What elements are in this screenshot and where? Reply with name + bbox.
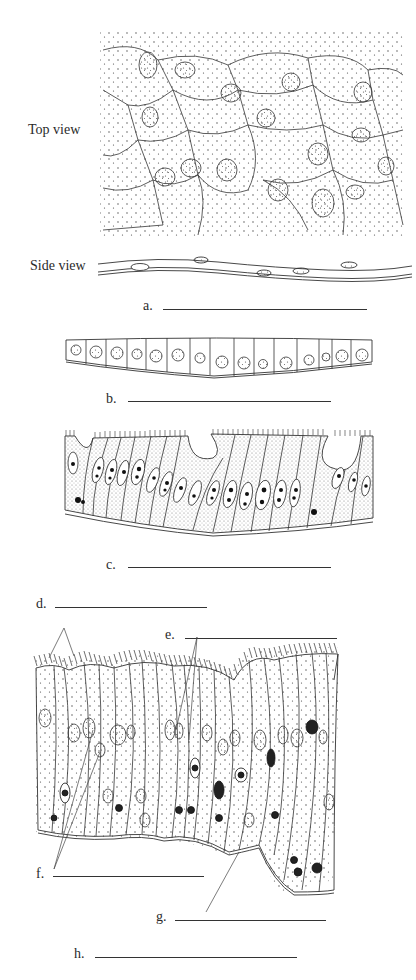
answer-line-h[interactable] xyxy=(95,957,297,958)
label-g: g. xyxy=(156,909,167,925)
label-h: h. xyxy=(74,946,85,962)
leader-line-d xyxy=(64,628,74,656)
answer-line-c[interactable] xyxy=(128,567,331,568)
answer-line-e[interactable] xyxy=(185,638,337,639)
label-a: a. xyxy=(143,298,153,314)
answer-line-b[interactable] xyxy=(128,401,331,402)
label-b: b. xyxy=(106,391,117,407)
label-f: f. xyxy=(36,866,44,882)
answer-line-g[interactable] xyxy=(175,920,326,921)
answer-line-d[interactable] xyxy=(55,607,207,608)
label-c: c. xyxy=(106,557,116,573)
answer-line-f[interactable] xyxy=(53,876,204,877)
pseudostratified-epithelium-illustration xyxy=(34,640,344,900)
squamous-side-view-illustration xyxy=(98,252,414,282)
top-view-label: Top view xyxy=(28,122,80,138)
columnar-epithelium-illustration xyxy=(63,428,375,538)
answer-line-a[interactable] xyxy=(163,309,367,310)
side-view-label: Side view xyxy=(30,258,86,274)
squamous-top-view-illustration xyxy=(98,30,408,240)
cuboidal-epithelium-illustration xyxy=(64,336,374,378)
label-d: d. xyxy=(36,596,47,612)
